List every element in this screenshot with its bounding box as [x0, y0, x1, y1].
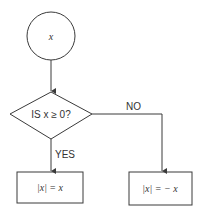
edge-no	[92, 114, 162, 171]
no-result-node: |x| = − x	[129, 172, 192, 205]
yes-result-node: |x| = x	[17, 172, 83, 203]
no-result-label: |x| = − x	[142, 183, 178, 194]
yes-result-label: |x| = x	[37, 182, 64, 193]
no-label: NO	[126, 101, 141, 112]
flowchart: x IS x ≥ 0? YES NO |x| = x |x| = − x	[0, 0, 202, 218]
decision-text: IS x ≥ 0?	[31, 109, 71, 120]
decision-node: IS x ≥ 0?	[10, 92, 92, 139]
start-node: x	[27, 12, 75, 60]
start-label: x	[48, 31, 54, 42]
yes-label: YES	[55, 149, 75, 160]
decision-label: IS x ≥ 0?	[31, 109, 71, 120]
